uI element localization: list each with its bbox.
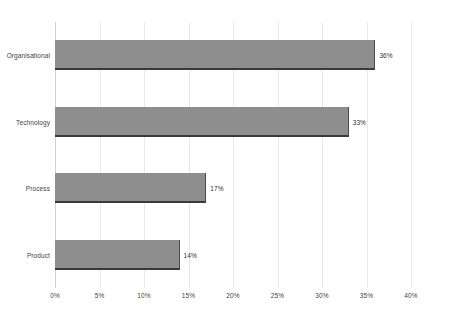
bar (55, 107, 349, 137)
x-tick-label: 10% (137, 292, 150, 299)
x-tick-label: 15% (182, 292, 195, 299)
bar (55, 173, 206, 203)
plot-area: 36%33%17%14% (55, 22, 411, 288)
x-tick-label: 5% (95, 292, 105, 299)
bar-value-label: 33% (353, 118, 366, 125)
category-label: Technology (16, 118, 50, 125)
y-axis-category-labels: OrganisationalTechnologyProcessProduct (0, 22, 50, 288)
category-label: Organisational (7, 52, 50, 59)
bar-chart: 36%33%17%14% 0%5%10%15%20%25%30%35%40% O… (0, 0, 451, 314)
x-tick-label: 40% (404, 292, 417, 299)
x-tick-label: 25% (271, 292, 284, 299)
x-tick-label: 20% (226, 292, 239, 299)
bar-value-label: 36% (379, 52, 392, 59)
x-tick-label: 35% (360, 292, 373, 299)
bar (55, 40, 375, 70)
gridline (411, 22, 412, 288)
x-tick-label: 0% (50, 292, 60, 299)
bar-value-label: 14% (184, 251, 197, 258)
x-tick-label: 30% (315, 292, 328, 299)
bar-value-label: 17% (210, 185, 223, 192)
category-label: Process (26, 185, 50, 192)
bar (55, 240, 180, 270)
category-label: Product (27, 251, 50, 258)
